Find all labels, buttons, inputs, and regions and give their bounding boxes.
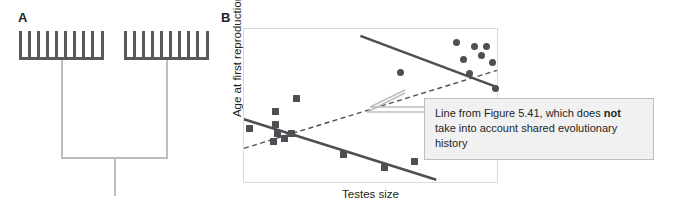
left-clade-tip bbox=[19, 31, 22, 58]
data-point bbox=[478, 52, 485, 59]
left-clade-tip bbox=[91, 31, 94, 58]
panel-a-phylogeny: A bbox=[0, 0, 215, 211]
right-clade-tip bbox=[196, 31, 199, 58]
data-point bbox=[471, 43, 478, 50]
data-point bbox=[411, 158, 418, 165]
right-clade-tip bbox=[169, 31, 172, 58]
data-point bbox=[381, 164, 388, 171]
left-clade-tip bbox=[37, 31, 40, 58]
data-point bbox=[270, 138, 277, 145]
data-point bbox=[340, 151, 347, 158]
left-clade-tip bbox=[46, 31, 49, 58]
right-clade-tip bbox=[142, 31, 145, 58]
data-point bbox=[246, 125, 253, 132]
figure-container: A bbox=[0, 0, 675, 211]
left-clade-stem bbox=[61, 60, 63, 158]
left-clade-tip bbox=[101, 31, 104, 58]
panel-b-label: B bbox=[221, 10, 231, 25]
y-axis-label: Age at first reproduction bbox=[231, 0, 243, 136]
data-point bbox=[274, 130, 281, 137]
right-clade-tip bbox=[206, 31, 209, 58]
panel-b-scatter: B Age at first reproduction Testes size … bbox=[215, 0, 675, 211]
callout-emphasis: not bbox=[604, 107, 621, 119]
callout-box: Line from Figure 5.41, which does not ta… bbox=[424, 98, 654, 160]
data-point bbox=[293, 95, 300, 102]
data-point bbox=[483, 43, 490, 50]
data-point bbox=[288, 130, 295, 137]
left-clade-tip bbox=[55, 31, 58, 58]
left-clade-tip bbox=[82, 31, 85, 58]
right-clade-stem bbox=[166, 60, 168, 158]
data-point bbox=[492, 85, 499, 92]
data-point bbox=[272, 121, 279, 128]
left-clade-tip bbox=[73, 31, 76, 58]
callout-text: Line from Figure 5.41, which does not ta… bbox=[435, 106, 643, 151]
right-clade-tip bbox=[160, 31, 163, 58]
data-point bbox=[460, 56, 467, 63]
left-clade-tip bbox=[28, 31, 31, 58]
right-clade-tip bbox=[187, 31, 190, 58]
root-stem bbox=[114, 158, 116, 196]
right-clade-tip bbox=[133, 31, 136, 58]
right-clade-tip bbox=[124, 31, 127, 58]
data-point bbox=[272, 108, 279, 115]
right-clade-tip bbox=[151, 31, 154, 58]
left-clade-tip bbox=[64, 31, 67, 58]
clade-2-regression bbox=[244, 119, 436, 179]
x-axis-label: Testes size bbox=[243, 188, 498, 200]
data-point bbox=[489, 59, 496, 66]
right-clade-tip bbox=[178, 31, 181, 58]
panel-a-label: A bbox=[18, 10, 28, 25]
